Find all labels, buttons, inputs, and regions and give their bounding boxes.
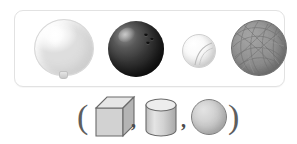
- finger-hole-icon: [150, 37, 154, 40]
- balloon-object[interactable]: [31, 19, 95, 81]
- yarn-ball-icon: [231, 20, 287, 76]
- balloon-icon: [34, 19, 94, 76]
- ball-seam-icon: [182, 34, 214, 66]
- finger-hole-icon: [144, 33, 148, 36]
- close-paren: ): [228, 96, 239, 138]
- sphere-shape[interactable]: [191, 99, 227, 135]
- worksheet-canvas: ( ,: [0, 0, 297, 144]
- open-paren: (: [77, 96, 88, 138]
- small-ball-object[interactable]: [182, 34, 216, 68]
- balloon-knot-icon: [59, 71, 68, 79]
- separator-comma: ,: [131, 102, 136, 138]
- bowling-ball-icon: [108, 21, 164, 77]
- balloon-highlight: [48, 26, 63, 48]
- separator-comma: ,: [181, 102, 186, 138]
- bowling-ball-highlight: [116, 25, 138, 45]
- cube-shape[interactable]: [94, 95, 136, 139]
- real-world-objects-panel: [14, 10, 285, 87]
- solid-shape-choices: ( ,: [0, 92, 297, 144]
- cylinder-shape[interactable]: [144, 97, 178, 139]
- bowling-ball-object[interactable]: [108, 21, 166, 79]
- sphere-icon: [191, 99, 227, 135]
- yarn-ball-object[interactable]: [231, 20, 289, 78]
- finger-hole-icon: [146, 41, 150, 44]
